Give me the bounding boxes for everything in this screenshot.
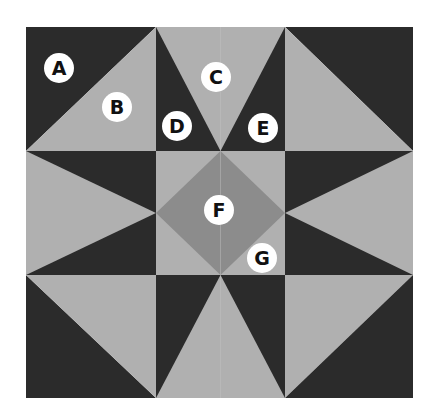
label-a: A [44, 53, 74, 83]
label-e-text: E [257, 119, 270, 138]
label-d-text: D [169, 117, 185, 136]
label-c: C [201, 62, 231, 92]
block-top-left [26, 27, 156, 151]
label-g: G [247, 243, 277, 273]
label-b: B [102, 92, 132, 122]
label-c-text: C [209, 68, 223, 87]
block-top-right [285, 27, 413, 151]
block-middle-right [285, 151, 413, 275]
label-d: D [162, 111, 192, 141]
block-bottom-left [26, 275, 156, 398]
label-f: F [204, 195, 234, 225]
label-g-text: G [254, 249, 270, 268]
label-a-text: A [52, 59, 67, 78]
block-middle-left [26, 151, 156, 275]
block-bottom-right [285, 275, 413, 398]
label-e: E [248, 113, 278, 143]
label-f-text: F [213, 201, 226, 220]
label-b-text: B [110, 98, 124, 117]
